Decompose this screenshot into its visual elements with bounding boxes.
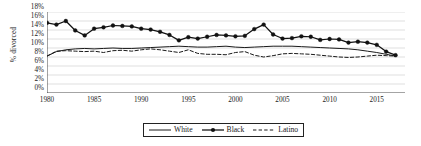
legend-swatch-white-icon (149, 126, 171, 134)
data-point-black (356, 40, 360, 44)
gridlines (47, 12, 405, 84)
y-tick-label: 8% (34, 49, 44, 56)
y-axis-title: % divorced (9, 10, 18, 80)
data-point-black (365, 41, 369, 45)
data-point-black (177, 38, 181, 42)
y-tick-label: 16% (31, 13, 44, 20)
series-line-latino (47, 49, 396, 58)
data-point-black (130, 25, 134, 29)
data-point-black (55, 23, 59, 27)
x-tick-label: 2015 (370, 97, 384, 104)
x-tick-label: 2005 (275, 97, 289, 104)
y-tick-label: 18% (31, 4, 44, 11)
data-point-black (111, 24, 115, 28)
legend-entry-black: Black (202, 125, 245, 134)
x-tick-label: 2000 (228, 97, 242, 104)
data-point-black (186, 35, 190, 39)
data-point-black (168, 33, 172, 37)
y-tick-label: 0% (34, 85, 44, 92)
legend-label: Black (227, 125, 245, 134)
data-point-black (102, 25, 106, 29)
data-point-black (234, 34, 238, 38)
y-tick-label: 10% (31, 40, 44, 47)
legend-label: Latino (278, 125, 298, 134)
data-point-black (252, 27, 256, 31)
data-point-black (384, 50, 388, 54)
plot-area (47, 12, 405, 93)
data-point-black (375, 43, 379, 47)
data-point-black (262, 23, 266, 27)
x-tick-label: 1990 (134, 97, 148, 104)
data-point-black (47, 21, 49, 25)
legend-entry-white: White (149, 125, 193, 134)
data-point-black (328, 37, 332, 41)
y-tick-label: 6% (34, 58, 44, 65)
x-tick-label: 2010 (322, 97, 336, 104)
legend-swatch-latino-icon (253, 126, 275, 134)
data-point-black (281, 37, 285, 41)
legend-label: White (174, 125, 193, 134)
data-point-black (120, 24, 124, 28)
y-tick-label: 12% (31, 31, 44, 38)
data-point-black (347, 41, 351, 45)
chart-legend: WhiteBlackLatino (143, 123, 304, 137)
data-point-black (224, 34, 228, 38)
data-point-black (271, 33, 275, 37)
data-point-black (139, 27, 143, 31)
data-point-black (64, 19, 68, 23)
y-tick-label: 2% (34, 76, 44, 83)
y-axis-tick-labels: 0%2%4%6%8%10%12%14%16%18% (18, 8, 44, 94)
x-tick-label: 1995 (181, 97, 195, 104)
y-tick-label: 4% (34, 67, 44, 74)
data-point-black (149, 28, 153, 32)
y-tick-label: 14% (31, 22, 44, 29)
legend-swatch-black-icon (202, 126, 224, 134)
data-point-black (158, 30, 162, 34)
series-line-black (47, 21, 396, 55)
axis-lines (47, 12, 405, 93)
data-point-black (243, 34, 247, 38)
data-point-black (92, 27, 96, 31)
chart-canvas (47, 12, 405, 93)
data-point-black (196, 37, 200, 41)
x-tick-label: 1980 (40, 97, 54, 104)
data-point-black (215, 33, 219, 37)
x-axis-tick-labels: 19801985199019952000200520102015 (0, 97, 421, 109)
data-point-black (299, 34, 303, 38)
x-tick-label: 1985 (87, 97, 101, 104)
data-point-black (83, 34, 87, 38)
data-point-black (205, 35, 209, 39)
legend-entry-latino: Latino (253, 125, 298, 134)
data-series-layer (47, 19, 397, 57)
data-point-black (318, 38, 322, 42)
divorce-rate-line-chart: % divorced 0%2%4%6%8%10%12%14%16%18% 198… (0, 0, 421, 146)
data-point-black (337, 38, 341, 42)
data-point-black (73, 29, 77, 33)
data-point-black (290, 36, 294, 40)
data-point-black (309, 35, 313, 39)
